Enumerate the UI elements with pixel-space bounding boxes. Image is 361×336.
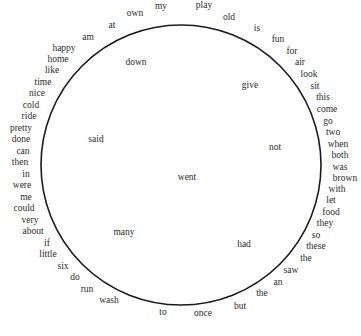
outer-word: time — [35, 78, 52, 88]
outer-word: were — [13, 181, 31, 191]
inner-word: down — [125, 58, 146, 68]
outer-word: wash — [99, 296, 119, 306]
outer-word: nice — [29, 89, 45, 99]
outer-word: little — [39, 250, 56, 260]
outer-word: when — [328, 140, 349, 150]
outer-word: was — [333, 163, 348, 173]
inner-word: went — [178, 173, 196, 183]
inner-word: not — [269, 143, 281, 153]
outer-word: in — [22, 170, 29, 180]
outer-word: like — [45, 66, 59, 76]
outer-word: to — [159, 308, 166, 318]
outer-word: happy — [52, 44, 75, 54]
outer-word: with — [329, 185, 346, 195]
outer-word: the — [300, 254, 312, 264]
word-circle-diagram: myplayownoldatisamfunhappyforhomeairlike… — [0, 0, 361, 336]
outer-word: ride — [22, 112, 37, 122]
outer-word: look — [301, 70, 318, 80]
outer-word: once — [194, 309, 212, 319]
outer-word: an — [274, 278, 283, 288]
outer-word: home — [47, 55, 68, 65]
outer-word: this — [316, 93, 330, 103]
outer-word: can — [16, 147, 29, 157]
outer-word: both — [332, 151, 349, 161]
outer-word: air — [295, 58, 305, 68]
outer-word: fun — [272, 35, 285, 45]
inner-word: had — [237, 240, 251, 250]
outer-word: could — [13, 204, 34, 214]
outer-word: the — [256, 289, 268, 299]
outer-word: pretty — [10, 124, 32, 134]
outer-word: then — [12, 158, 28, 168]
outer-word: six — [57, 262, 68, 272]
outer-word: play — [196, 1, 212, 11]
outer-word: very — [22, 216, 39, 226]
outer-word: come — [317, 105, 338, 115]
outer-word: cold — [23, 101, 39, 111]
outer-word: at — [109, 21, 116, 31]
inner-word: give — [242, 81, 258, 91]
outer-word: they — [317, 219, 333, 229]
outer-word: so — [312, 231, 320, 241]
outer-word: saw — [284, 266, 299, 276]
outer-word: if — [44, 239, 50, 249]
outer-word: old — [223, 13, 235, 23]
outer-word: these — [306, 242, 326, 252]
outer-word: do — [70, 273, 80, 283]
outer-word: run — [81, 285, 94, 295]
outer-word: my — [155, 2, 167, 12]
outer-word: for — [286, 47, 297, 57]
outer-word: brown — [333, 174, 357, 184]
outer-word: sit — [311, 82, 320, 92]
inner-word: many — [113, 228, 134, 238]
outer-word: about — [22, 227, 43, 237]
outer-word: done — [12, 135, 30, 145]
outer-word: own — [127, 9, 143, 19]
outer-word: but — [234, 302, 246, 312]
outer-word: is — [254, 24, 260, 34]
outer-word: am — [82, 33, 94, 43]
outer-word: me — [20, 193, 32, 203]
outer-word: two — [326, 128, 340, 138]
outer-word: let — [326, 196, 336, 206]
inner-word: said — [88, 135, 103, 145]
outer-word: food — [322, 208, 339, 218]
outer-word: go — [323, 117, 333, 127]
